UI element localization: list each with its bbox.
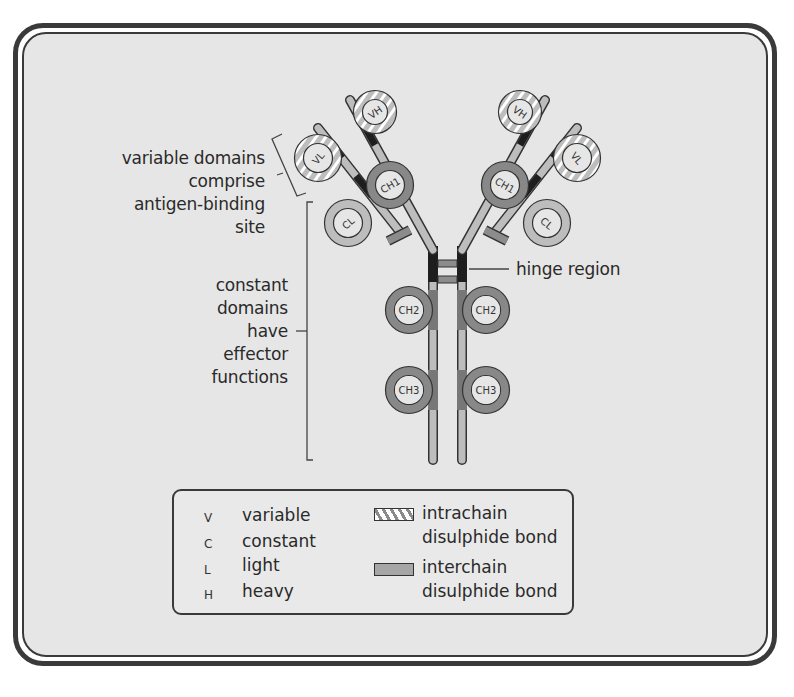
annotation-line: constant xyxy=(150,274,288,297)
annotation-line: comprise xyxy=(100,170,265,193)
annotation-line: variable domains xyxy=(100,147,265,170)
annotation-line: antigen-binding xyxy=(100,193,265,216)
annotation-line: site xyxy=(100,216,265,239)
label-ch3-left: CH3 xyxy=(399,385,420,396)
hinge-disulphide-bonds xyxy=(438,260,457,283)
right-interchain-bond xyxy=(485,230,507,241)
label-ch2-right: CH2 xyxy=(476,305,497,316)
hinge-region-label: hinge region xyxy=(516,258,620,281)
intrachain-bond-swatch-icon xyxy=(374,508,414,521)
legend: V variable C constant L light H heavy in… xyxy=(172,489,574,615)
constant-domains-annotation: constant domains have effector functions xyxy=(150,274,288,389)
legend-meaning-heavy: heavy xyxy=(242,581,294,601)
label-ch2-left: CH2 xyxy=(399,305,420,316)
legend-abbr-c: C xyxy=(204,537,212,551)
legend-meaning-constant: constant xyxy=(242,531,316,551)
legend-intrachain-label: intrachain xyxy=(422,503,508,523)
annotation-line: have xyxy=(150,320,288,343)
label-ch3-right: CH3 xyxy=(476,385,497,396)
variable-domains-annotation: variable domains comprise antigen-bindin… xyxy=(100,147,265,239)
annotation-line: functions xyxy=(150,366,288,389)
annotation-line: effector xyxy=(150,343,288,366)
interchain-bond-swatch-icon xyxy=(374,563,414,576)
left-interchain-bond xyxy=(388,230,410,241)
annotation-line: domains xyxy=(150,297,288,320)
legend-interchain-desc: disulphide bond xyxy=(422,581,558,601)
constant-bracket xyxy=(296,202,313,460)
legend-abbr-v: V xyxy=(204,511,212,525)
stem-right-heavy-chain xyxy=(457,246,467,460)
legend-abbr-l: L xyxy=(204,563,211,577)
legend-intrachain-desc: disulphide bond xyxy=(422,527,558,547)
stem-left-heavy-chain xyxy=(428,246,438,460)
legend-interchain-label: interchain xyxy=(422,557,507,577)
legend-meaning-variable: variable xyxy=(242,505,311,525)
legend-abbr-h: H xyxy=(204,588,213,602)
legend-meaning-light: light xyxy=(242,555,280,575)
